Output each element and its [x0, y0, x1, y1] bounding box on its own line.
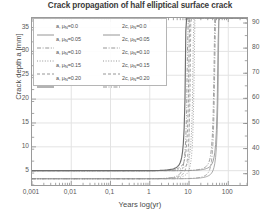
x-axis-tick-label: 100 [211, 188, 243, 195]
y-axis-right-tick-label: 50 [252, 118, 259, 125]
legend-item: 2c, μN=0.20 [100, 75, 166, 82]
legend-item: a, μN=0.20 [34, 75, 100, 82]
legend-item: a, μN=0.0 [34, 23, 100, 30]
legend-item-label: a, μN=0.0 [56, 23, 78, 30]
legend-item: 2c, μN=0.10 [100, 49, 166, 56]
y-axis-left-tick-label: 20 [22, 94, 29, 101]
x-axis-tick-label: 0,001 [15, 188, 47, 195]
legend-item: a, μN=0.15 [34, 62, 100, 69]
legend-line-sample [37, 24, 54, 29]
x-axis-label: Years log(yr) [0, 200, 280, 209]
y-axis-left-tick-label: 35 [22, 23, 29, 30]
y-axis-right-tick-label: 60 [252, 93, 259, 100]
y-axis-right-tick-label: 30 [252, 169, 259, 176]
legend-line-sample [103, 37, 120, 42]
legend-line-sample [103, 50, 120, 55]
legend-item: 2c, μN=0.0 [100, 23, 166, 30]
legend-item: a, μN=0.10 [34, 49, 100, 56]
legend-item-label: 2c, μN=0.10 [122, 49, 149, 56]
y-axis-right-tick-label: 80 [252, 43, 259, 50]
legend-item-label: 2c, μN=0.15 [122, 62, 149, 69]
x-axis-tick-label: 0,01 [54, 188, 86, 195]
x-axis-tick-label: 0,1 [94, 188, 126, 195]
legend-item-label: a, μN=0.15 [56, 62, 81, 69]
y-axis-left-tick-label: 25 [22, 70, 29, 77]
legend-line-sample [37, 50, 54, 55]
y-axis-left-tick-label: 5 [25, 166, 29, 173]
y-axis-right-tick-label: 70 [252, 68, 259, 75]
y-axis-right-tick-label: 90 [252, 18, 259, 25]
y-axis-left-tick-label: 15 [22, 118, 29, 125]
legend-line-sample [103, 63, 120, 68]
chart-title: Crack propagation of half elliptical sur… [0, 1, 280, 10]
legend-line-sample [37, 63, 54, 68]
legend-item-label: a, μN=0.20 [56, 75, 81, 82]
x-axis-tick-label: 10 [172, 188, 204, 195]
legend-item-label: a, μN=0.10 [56, 49, 81, 56]
y-axis-right-tick-label: 40 [252, 144, 259, 151]
legend-item: a, μN=0.05 [34, 36, 100, 43]
legend-line-sample [103, 76, 120, 81]
legend-line-sample [37, 37, 54, 42]
legend-item: 2c, μN=0.15 [100, 62, 166, 69]
y-axis-left-tick-label: 10 [22, 142, 29, 149]
legend-item-label: a, μN=0.05 [56, 36, 81, 43]
y-axis-left-tick-label: 30 [22, 46, 29, 53]
chart-figure: Crack propagation of half elliptical sur… [0, 0, 280, 224]
legend-item-label: 2c, μN=0.05 [122, 36, 149, 43]
legend-line-sample [103, 24, 120, 29]
legend-row: a, μN=0.02c, μN=0.0 [34, 20, 166, 33]
x-axis-tick-label: 1 [133, 188, 165, 195]
legend-item-label: 2c, μN=0.20 [122, 75, 149, 82]
chart-legend: a, μN=0.02c, μN=0.0a, μN=0.052c, μN=0.05… [33, 18, 167, 86]
legend-item-label: 2c, μN=0.0 [122, 23, 146, 30]
legend-line-sample [37, 76, 54, 81]
legend-item: 2c, μN=0.05 [100, 36, 166, 43]
